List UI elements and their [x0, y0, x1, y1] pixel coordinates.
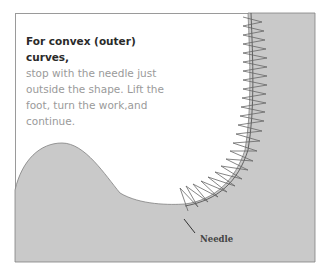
needle-label: Needle [200, 234, 233, 244]
caption-heading: For convex (outer) curves, [26, 33, 166, 65]
caption-body: stop with the needle just outside the sh… [26, 67, 164, 127]
instruction-caption: For convex (outer) curves, stop with the… [26, 33, 166, 129]
